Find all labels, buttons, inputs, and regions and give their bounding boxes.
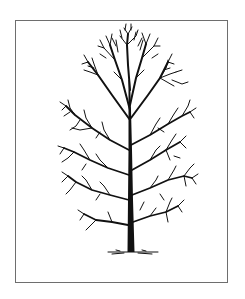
branches (58, 24, 198, 230)
tree-illustration (0, 0, 245, 299)
